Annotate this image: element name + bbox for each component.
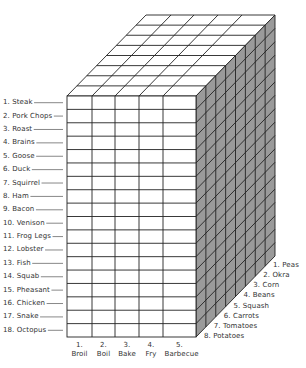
column-label: 4.Fry [136,341,166,359]
column-number: 5. [165,341,195,350]
row-label: 14. Squab [3,272,39,280]
row-label: 1. Steak [3,98,33,106]
row-label: 16. Chicken [3,299,45,307]
row-label: 4. Brains [3,138,35,146]
row-label: 6. Duck [3,165,30,173]
row-label: 11. Frog Legs [3,232,51,240]
row-label: 15. Pheasant [3,286,50,294]
column-number: 4. [136,341,166,350]
row-label: 17. Snake [3,312,39,320]
row-label: 7. Squirrel [3,179,40,187]
row-label: 12. Lobster [3,245,44,253]
cube-diagram: 1. Steak2. Pork Chops3. Roast4. Brains5.… [0,0,306,368]
column-name: Barbecue [165,350,195,359]
row-label: 8. Ham [3,192,29,200]
depth-label: 1. Peas [273,261,299,269]
row-label: 13. Fish [3,259,31,267]
column-label: 5.Barbecue [165,341,195,359]
row-label: 5. Goose [3,152,35,160]
grid-cube [0,0,306,368]
row-label: 3. Roast [3,125,32,133]
depth-label: 3. Corn [253,281,279,289]
depth-label: 8. Potatoes [204,332,244,340]
depth-label: 6. Carrots [224,312,259,320]
depth-label: 4. Beans [243,291,274,299]
depth-label: 5. Squash [234,302,270,310]
depth-label: 2. Okra [263,271,289,279]
row-label: 10. Venison [3,219,45,227]
depth-label: 7. Tomatoes [214,322,257,330]
row-label: 18. Octopus [3,326,46,334]
row-label: 9. Bacon [3,205,34,213]
row-label: 2. Pork Chops [3,112,52,120]
column-name: Fry [136,350,166,359]
